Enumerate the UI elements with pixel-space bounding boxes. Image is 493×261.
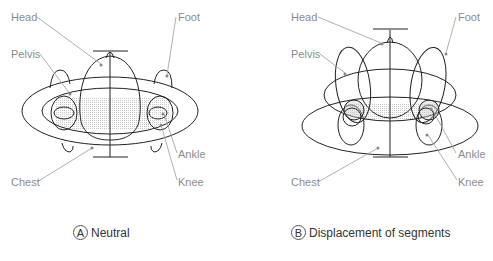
right-foot-shape <box>154 70 172 88</box>
label-head-a: Head <box>11 11 37 23</box>
label-chest-a: Chest <box>11 176 40 188</box>
label-pelvis-b: Pelvis <box>291 48 320 60</box>
label-ankle-b: Ankle <box>458 148 486 160</box>
caption-a-text: Neutral <box>91 226 130 240</box>
caption-b-text: Displacement of segments <box>309 226 450 240</box>
label-knee-a: Knee <box>178 176 204 188</box>
label-knee-b: Knee <box>458 176 484 188</box>
caption-a: A Neutral <box>73 225 130 240</box>
label-foot-a: Foot <box>178 11 200 23</box>
panel-a-figure <box>22 51 198 157</box>
label-chest-b: Chest <box>291 176 320 188</box>
label-ankle-a: Ankle <box>178 148 206 160</box>
label-head-b: Head <box>291 11 317 23</box>
panel-a-badge: A <box>73 225 88 240</box>
label-pelvis-a: Pelvis <box>11 48 40 60</box>
panel-b-figure <box>302 29 478 157</box>
caption-b: B Displacement of segments <box>291 225 450 240</box>
label-foot-b: Foot <box>458 11 480 23</box>
panel-b-badge: B <box>291 225 306 240</box>
diagram-canvas <box>0 0 493 261</box>
